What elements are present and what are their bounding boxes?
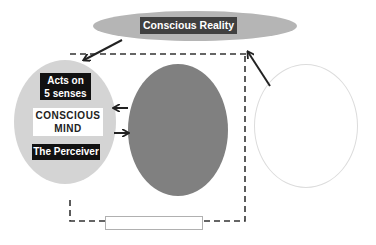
connector-layer bbox=[0, 0, 376, 245]
arrow-reality-to-conscious bbox=[84, 40, 122, 60]
arrow-right-to-reality bbox=[248, 52, 270, 86]
dashed-loop-connector bbox=[70, 54, 246, 221]
